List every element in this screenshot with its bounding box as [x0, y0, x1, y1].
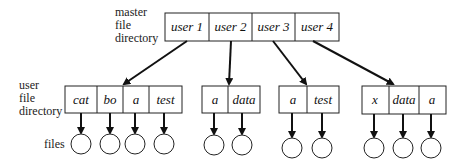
- svg-text:data: data: [392, 92, 416, 107]
- svg-text:a: a: [429, 92, 436, 107]
- file-circle: [421, 138, 441, 158]
- user-file-directory-label: user file directory: [19, 78, 62, 118]
- svg-text:test: test: [156, 92, 174, 107]
- two-level-directory-diagram: master file directory user file director…: [0, 0, 463, 167]
- svg-text:master: master: [115, 5, 147, 19]
- master-file-directory: user 1 user 2 user 3 user 4: [165, 13, 339, 41]
- master-cell-user-1: user 1: [171, 19, 203, 34]
- file-circle: [71, 134, 91, 154]
- svg-text:cat: cat: [73, 92, 89, 107]
- master-cell-user-2: user 2: [214, 19, 247, 34]
- file-pointers: [81, 113, 431, 137]
- files: [71, 134, 441, 158]
- svg-text:data: data: [232, 92, 256, 107]
- arrow-user-3: [273, 41, 306, 84]
- file-circle: [154, 134, 174, 154]
- user-3-directory: a test: [279, 86, 339, 113]
- file-circle: [100, 134, 120, 154]
- files-label: files: [44, 137, 65, 151]
- svg-text:file: file: [115, 18, 131, 32]
- svg-text:user: user: [19, 78, 39, 92]
- svg-text:file: file: [19, 91, 35, 105]
- svg-text:directory: directory: [115, 31, 158, 45]
- file-circle: [312, 138, 332, 158]
- master-pointers: [124, 41, 393, 84]
- user-2-directory: a data: [202, 86, 260, 113]
- file-circle: [232, 135, 252, 155]
- svg-text:bo: bo: [104, 92, 118, 107]
- master-file-directory-label: master file directory: [115, 5, 158, 45]
- svg-text:test: test: [314, 92, 332, 107]
- svg-text:x: x: [371, 92, 378, 107]
- arrow-user-1: [124, 41, 187, 84]
- svg-text:a: a: [290, 92, 297, 107]
- file-circle: [282, 138, 302, 158]
- user-4-directory: x data a: [362, 86, 446, 114]
- master-cell-user-4: user 4: [301, 19, 334, 34]
- user-1-directory: cat bo a test: [65, 86, 182, 113]
- arrow-user-4: [313, 41, 393, 84]
- file-circle: [125, 134, 145, 154]
- svg-text:directory: directory: [19, 104, 62, 118]
- arrow-user-2: [229, 41, 231, 84]
- svg-text:a: a: [212, 92, 219, 107]
- master-cell-user-3: user 3: [257, 19, 290, 34]
- file-circle: [364, 138, 384, 158]
- file-circle: [204, 135, 224, 155]
- svg-text:a: a: [133, 92, 140, 107]
- file-circle: [393, 138, 413, 158]
